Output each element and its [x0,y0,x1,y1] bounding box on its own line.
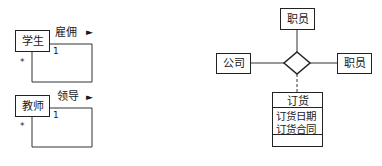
multiplicity-target: 1 [53,111,59,120]
association-diamond[interactable] [284,52,310,74]
class-box-top-employee[interactable]: 职员 [280,8,315,30]
association-name-lead: 领导 [57,91,79,102]
class-box-student[interactable]: 学生 [15,30,50,52]
direction-arrow-icon: ► [86,28,93,37]
multiplicity-source: * [20,58,25,67]
attribute-order-date: 订货日期 [276,110,320,123]
association-name-employ: 雇佣 [55,27,77,38]
association-class-operations [273,135,322,146]
direction-arrow-icon: ► [86,93,93,102]
class-box-company[interactable]: 公司 [216,53,251,74]
attribute-order-contract: 订货合同 [276,123,320,136]
class-name: 教师 [22,101,44,112]
class-name: 职员 [344,58,366,69]
class-name: 职员 [287,14,309,25]
diagram-connectors [0,0,382,166]
multiplicity-target: 1 [53,47,59,56]
class-box-teacher[interactable]: 教师 [15,95,50,117]
class-box-right-employee[interactable]: 职员 [337,53,372,74]
association-class-order[interactable]: 订货 订货日期 订货合同 [272,92,323,147]
association-class-name: 订货 [273,93,322,108]
class-name: 公司 [223,58,245,69]
association-class-attributes: 订货日期 订货合同 [273,108,322,135]
class-name: 学生 [22,36,44,47]
multiplicity-source: * [20,122,25,131]
